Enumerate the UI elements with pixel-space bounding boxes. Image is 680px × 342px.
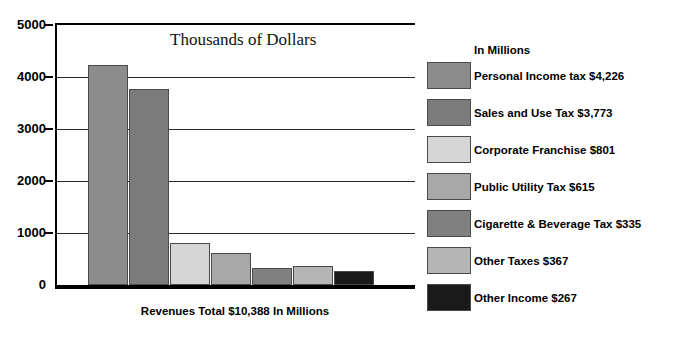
legend-swatch <box>427 62 471 89</box>
legend-item[interactable]: Personal Income tax $4,226 <box>427 62 677 92</box>
y-axis-tick-label: 1000 <box>0 226 46 239</box>
y-axis-tick-label: 2000 <box>0 174 46 187</box>
y-axis-tick-label: 5000 <box>0 18 46 31</box>
legend-item-label: Personal Income tax $4,226 <box>474 71 624 83</box>
y-axis-tick-label: 0 <box>0 278 46 291</box>
bar <box>293 266 333 285</box>
legend-item-label: Sales and Use Tax $3,773 <box>474 108 613 120</box>
legend-title: In Millions <box>474 44 530 56</box>
legend-item[interactable]: Other Income $267 <box>427 284 677 314</box>
legend-item[interactable]: Cigarette & Beverage Tax $335 <box>427 210 677 240</box>
y-axis-tick-label: 3000 <box>0 122 46 135</box>
legend-item[interactable]: Other Taxes $367 <box>427 247 677 277</box>
bar <box>252 268 292 285</box>
bar <box>88 65 128 285</box>
bar <box>334 271 374 285</box>
plot-area <box>55 23 415 289</box>
legend-item-label: Other Taxes $367 <box>474 256 568 268</box>
chart-title: Thousands of Dollars <box>170 30 316 50</box>
legend-swatch <box>427 284 471 311</box>
legend-item[interactable]: Corporate Franchise $801 <box>427 136 677 166</box>
y-axis-tick-mark <box>45 76 53 78</box>
legend-item-label: Other Income $267 <box>474 293 577 305</box>
legend-swatch <box>427 210 471 237</box>
bar <box>129 89 169 285</box>
chart-screenshot: 500040003000200010000 Thousands of Dolla… <box>0 0 680 342</box>
y-axis: 500040003000200010000 <box>0 0 55 342</box>
legend-item-label: Corporate Franchise $801 <box>474 145 615 157</box>
legend-item[interactable]: Public Utility Tax $615 <box>427 173 677 203</box>
legend-item-label: Public Utility Tax $615 <box>474 182 595 194</box>
y-axis-tick-mark <box>45 128 53 130</box>
y-axis-tick-mark <box>45 232 53 234</box>
legend-swatch <box>427 173 471 200</box>
bar-group <box>55 23 415 285</box>
legend-swatch <box>427 99 471 126</box>
legend-item[interactable]: Sales and Use Tax $3,773 <box>427 99 677 129</box>
legend-swatch <box>427 136 471 163</box>
y-axis-tick-label: 4000 <box>0 70 46 83</box>
y-axis-tick-mark <box>45 180 53 182</box>
bar <box>170 243 210 285</box>
y-axis-tick-mark <box>45 24 53 26</box>
bar <box>211 253 251 285</box>
legend-swatch <box>427 247 471 274</box>
x-axis-caption: Revenues Total $10,388 In Millions <box>55 305 415 317</box>
legend-item-label: Cigarette & Beverage Tax $335 <box>474 219 641 231</box>
